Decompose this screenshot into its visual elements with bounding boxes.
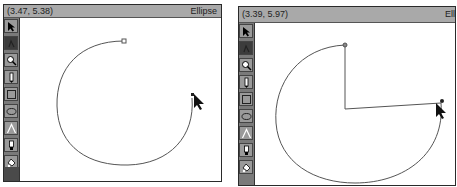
- elliptical-arc-shape[interactable]: [20, 18, 222, 182]
- rectangle-icon: [241, 94, 252, 105]
- paint-bucket-icon: [241, 162, 252, 173]
- arrow-tool[interactable]: [4, 19, 18, 33]
- magnifier-icon: [6, 55, 17, 66]
- wedge-end-handle[interactable]: [440, 99, 444, 103]
- rectangle-tool[interactable]: [4, 87, 18, 101]
- drawing-canvas[interactable]: [20, 18, 221, 181]
- pen-icon: [241, 77, 252, 88]
- ellipse-tool[interactable]: [239, 109, 253, 123]
- tool-palette: [4, 18, 20, 181]
- paint-tube-icon: [241, 145, 252, 156]
- tool-palette: [239, 23, 255, 185]
- fill-tool[interactable]: [239, 143, 253, 157]
- wedge-start-handle[interactable]: [343, 43, 347, 47]
- line-tool[interactable]: [239, 126, 253, 140]
- magnifier-icon: [241, 60, 252, 71]
- mouse-cursor-icon: [194, 94, 204, 110]
- ellipse-icon: [6, 106, 17, 117]
- pen-tool[interactable]: [239, 75, 253, 89]
- zoom-tool[interactable]: [4, 53, 18, 67]
- rectangle-tool[interactable]: [239, 92, 253, 106]
- cursor-coordinates: (3.39, 5.97): [242, 7, 288, 22]
- fill-tool[interactable]: [4, 138, 18, 152]
- ellipse-icon: [241, 111, 252, 122]
- arc-end-handle[interactable]: [191, 93, 194, 96]
- title-bar: (3.39, 5.97) Ell: [239, 7, 455, 23]
- pen-icon: [6, 72, 17, 83]
- angle-line-icon: [6, 123, 17, 134]
- ellipse-tool[interactable]: [4, 104, 18, 118]
- drawing-window-left: (3.47, 5.38) Ellipse: [3, 4, 222, 182]
- arrow-icon: [6, 21, 17, 32]
- arc-start-handle[interactable]: [122, 39, 126, 43]
- line-tool[interactable]: [4, 121, 18, 135]
- drawing-window-right: (3.39, 5.97) Ell: [238, 6, 456, 186]
- zoom-tool[interactable]: [239, 58, 253, 72]
- rectangle-icon: [6, 89, 17, 100]
- paint-tube-icon: [6, 140, 17, 151]
- rotate-tool[interactable]: [239, 41, 253, 55]
- rotate-tool[interactable]: [4, 36, 18, 50]
- title-bar: (3.47, 5.38) Ellipse: [4, 5, 221, 18]
- drawing-canvas[interactable]: [255, 23, 455, 185]
- tool-mode-label: Ell: [445, 7, 455, 22]
- cursor-coordinates: (3.47, 5.38): [7, 5, 53, 17]
- rotate-icon: [241, 43, 252, 54]
- palette-spacer: [4, 167, 19, 181]
- pie-wedge-shape[interactable]: [255, 23, 457, 187]
- arrow-icon: [241, 26, 252, 37]
- rotate-icon: [6, 38, 17, 49]
- paint-bucket-icon: [6, 157, 17, 168]
- tool-mode-label: Ellipse: [190, 5, 217, 17]
- pen-tool[interactable]: [4, 70, 18, 84]
- arrow-tool[interactable]: [239, 24, 253, 38]
- bucket-tool[interactable]: [239, 160, 253, 174]
- angle-line-icon: [241, 128, 252, 139]
